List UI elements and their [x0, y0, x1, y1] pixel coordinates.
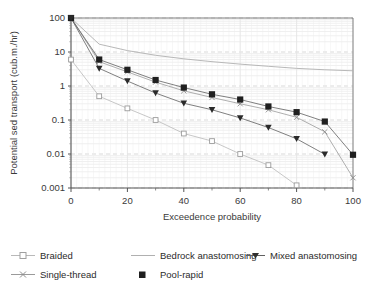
data-point-marker [153, 118, 158, 123]
x-tick-label: 20 [122, 195, 133, 206]
chart-legend: Braided Bedrock anastomosing Mixed an [10, 248, 356, 286]
x-tick-label: 100 [345, 195, 361, 206]
y-tick-label: 0.001 [41, 182, 65, 193]
data-point-marker [96, 66, 103, 72]
legend-marker-open-square [10, 250, 36, 261]
legend-label-braided: Braided [40, 250, 73, 261]
legend-item-pool-rapid: Pool-rapid [130, 267, 203, 282]
legend-label-single-thread: Single-thread [40, 269, 97, 280]
legend-label-mixed-anastomosing: Mixed anastomosing [270, 250, 357, 261]
legend-item-single-thread: Single-thread [10, 267, 130, 282]
legend-marker-plain-line [130, 250, 156, 261]
data-point-marker [294, 183, 299, 188]
data-point-marker [181, 131, 186, 136]
y-tick-label: 10 [54, 46, 65, 57]
legend-marker-filled-square [130, 269, 156, 280]
y-tick-label: 100 [49, 12, 65, 23]
legend-item-bedrock-anastomosing: Bedrock anastomosing [130, 248, 257, 263]
plot-area: 1001010.10.010.001020406080100 Exceedenc… [0, 0, 366, 240]
data-point-marker [96, 56, 102, 62]
data-point-marker [294, 109, 300, 115]
data-point-marker [265, 103, 271, 109]
x-tick-label: 40 [179, 195, 190, 206]
x-tick-label: 60 [235, 195, 246, 206]
chart-svg: 1001010.10.010.001020406080100 Exceedenc… [0, 0, 366, 240]
legend-item-braided: Braided [10, 248, 130, 263]
legend-label-bedrock-anastomosing: Bedrock anastomosing [160, 250, 257, 261]
axis-ticks [68, 18, 353, 192]
data-point-marker [238, 152, 243, 157]
y-tick-label: 0.01 [47, 148, 66, 159]
y-tick-label: 0.1 [52, 114, 65, 125]
legend-marker-cross [10, 269, 36, 280]
data-point-marker [266, 163, 271, 168]
legend-row-top: Braided Bedrock anastomosing Mixed an [10, 248, 130, 263]
data-point-marker [322, 152, 329, 158]
data-point-marker [124, 67, 130, 73]
legend-marker-filled-triangle-down [246, 250, 266, 261]
legend-label-pool-rapid: Pool-rapid [160, 269, 203, 280]
data-point-marker [210, 139, 215, 144]
axis-tick-labels: 1001010.10.010.001020406080100 [41, 12, 361, 206]
chart-figure: 1001010.10.010.001020406080100 Exceedenc… [0, 0, 366, 290]
y-tick-label: 1 [60, 80, 65, 91]
x-tick-label: 0 [68, 195, 73, 206]
data-point-marker [181, 84, 187, 90]
data-point-marker [97, 94, 102, 99]
data-point-marker [322, 118, 328, 124]
data-point-marker [125, 106, 130, 111]
data-point-marker [124, 78, 131, 84]
y-axis-title: Potential sed transport (cub.m./hr) [8, 31, 19, 175]
legend-row-bottom: Single-thread Pool-rapid [10, 267, 130, 282]
data-point-marker [293, 136, 300, 142]
grid-lines [71, 18, 353, 188]
data-point-marker [209, 91, 215, 97]
data-point-marker [153, 77, 159, 83]
data-point-marker [350, 152, 356, 158]
data-point-marker [237, 96, 243, 102]
legend-item-mixed-anastomosing: Mixed anastomosing [246, 248, 357, 263]
x-tick-label: 80 [291, 195, 302, 206]
x-axis-title: Exceedence probability [163, 211, 261, 222]
data-point-marker [69, 57, 74, 62]
